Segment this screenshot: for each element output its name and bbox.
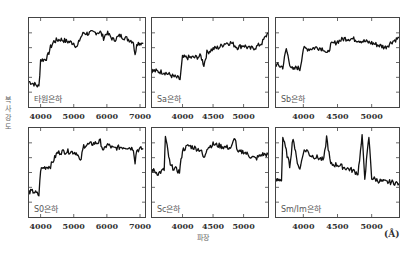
spectrum-panel: 타원은하 xyxy=(28,17,146,108)
galaxy-type-label: S0은하 xyxy=(34,203,58,214)
x-tick-label: 4000 xyxy=(292,111,314,121)
x-tick-label: 4500 xyxy=(202,221,224,231)
galaxy-type-label: Sm/Im은하 xyxy=(281,203,321,214)
galaxy-type-label: 타원은하 xyxy=(34,93,62,104)
x-axis-label: 파장 xyxy=(197,232,209,242)
x-tick-label: 5000 xyxy=(361,111,383,121)
x-tick-label: 6000 xyxy=(96,111,118,121)
x-tick-label: 7000 xyxy=(129,221,151,231)
x-tick-label: 4000 xyxy=(171,221,193,231)
spectrum-panel: Sm/Im은하 xyxy=(275,127,400,218)
y-axis-label: 복사강도 xyxy=(2,96,14,132)
galaxy-type-label: Sb은하 xyxy=(281,93,305,104)
x-tick-label: 6000 xyxy=(96,221,118,231)
x-tick-label: 4000 xyxy=(171,111,193,121)
spectrum-panel: Sa은하 xyxy=(151,17,269,108)
galaxy-type-label: Sa은하 xyxy=(157,93,181,104)
galaxy-type-label: Sc은하 xyxy=(157,203,180,214)
spectrum-panel: Sc은하 xyxy=(151,127,269,218)
x-tick-label: 4000 xyxy=(292,221,314,231)
x-tick-label: 7000 xyxy=(129,111,151,121)
unit-label: (Å) xyxy=(384,229,400,239)
spectrum-panel: Sb은하 xyxy=(275,17,400,108)
x-tick-label: 5000 xyxy=(232,221,254,231)
x-tick-label: 4500 xyxy=(326,221,348,231)
x-tick-label: 5000 xyxy=(63,111,85,121)
x-tick-label: 4000 xyxy=(29,221,51,231)
x-tick-label: 5000 xyxy=(361,221,383,231)
x-tick-label: 5000 xyxy=(232,111,254,121)
x-tick-label: 4500 xyxy=(202,111,224,121)
spectrum-panel: S0은하 xyxy=(28,127,146,218)
x-tick-label: 5000 xyxy=(63,221,85,231)
x-tick-label: 4000 xyxy=(29,111,51,121)
x-tick-label: 4500 xyxy=(326,111,348,121)
